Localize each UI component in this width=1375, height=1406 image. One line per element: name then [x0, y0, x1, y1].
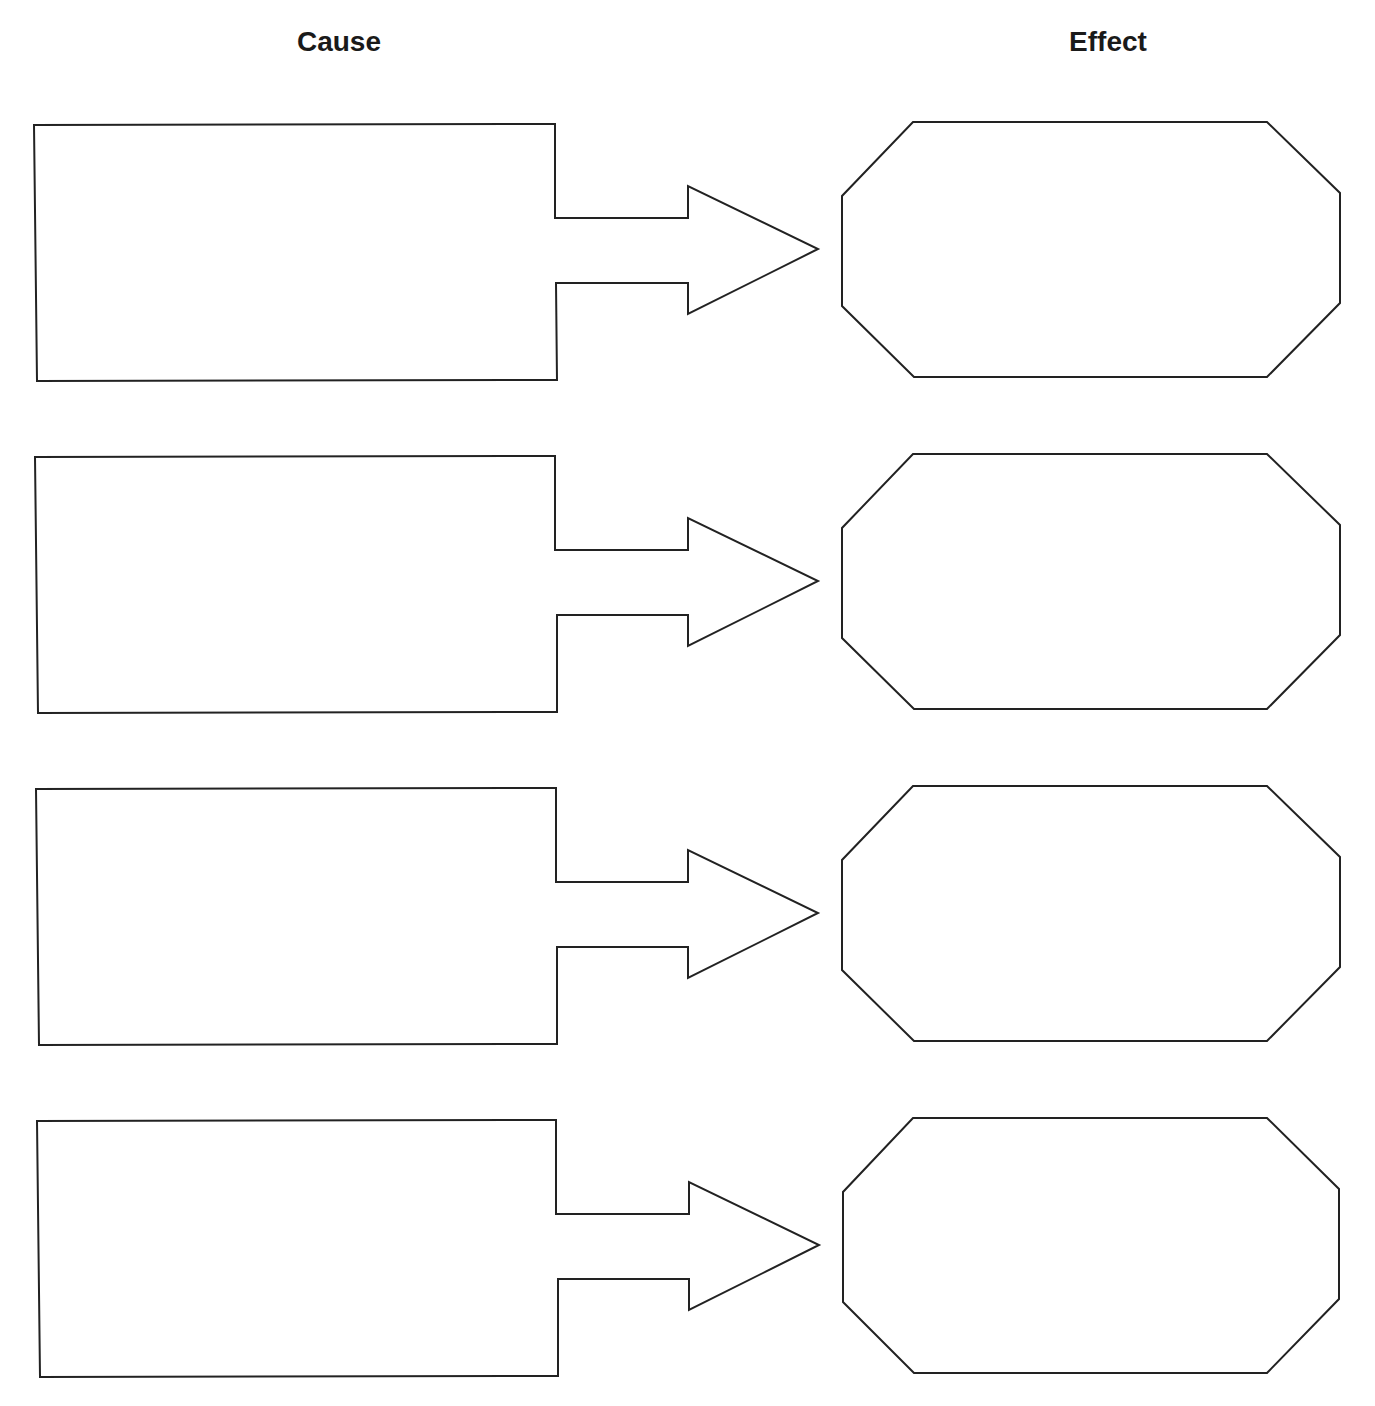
cause-box-1[interactable]	[34, 124, 818, 381]
cause-box-4[interactable]	[37, 1120, 819, 1377]
diagram-row	[36, 786, 1340, 1045]
effect-box-1[interactable]	[842, 122, 1340, 377]
effect-box-2[interactable]	[842, 454, 1340, 709]
diagram-row	[37, 1118, 1339, 1377]
cause-effect-diagram	[0, 0, 1375, 1406]
effect-box-3[interactable]	[842, 786, 1340, 1041]
diagram-row	[34, 122, 1340, 381]
cause-box-2[interactable]	[35, 456, 818, 713]
cause-box-3[interactable]	[36, 788, 818, 1045]
diagram-row	[35, 454, 1340, 713]
effect-box-4[interactable]	[843, 1118, 1339, 1373]
